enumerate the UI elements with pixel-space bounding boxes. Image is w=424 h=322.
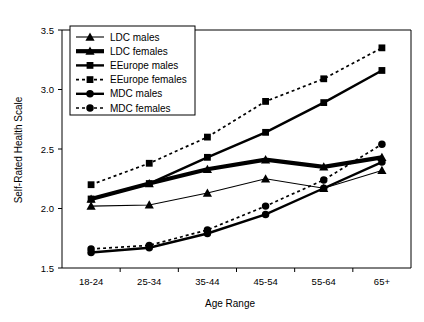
chart-container: 1.52.02.53.03.5 18-2425-3435-4445-5455-6…	[0, 0, 424, 322]
data-point-marker	[262, 202, 269, 209]
series-line	[91, 162, 382, 252]
data-point-marker	[379, 44, 386, 51]
legend-label: EEurope females	[110, 74, 187, 85]
legend-marker-circle-icon	[86, 104, 93, 111]
data-point-marker	[146, 180, 153, 187]
data-point-marker	[320, 75, 327, 82]
data-point-marker	[378, 158, 385, 165]
x-tick-label: 55-64	[312, 276, 336, 287]
x-axis-title: Age Range	[205, 298, 255, 309]
data-point-marker	[87, 245, 94, 252]
legend-label: LDC males	[110, 32, 159, 43]
y-tick-label: 2.5	[41, 144, 54, 155]
x-tick-label: 18-24	[79, 276, 103, 287]
legend-label: EEurope males	[110, 60, 178, 71]
legend-label: MDC males	[110, 88, 162, 99]
x-tick-label: 45-54	[253, 276, 277, 287]
legend-label: LDC females	[110, 46, 168, 57]
series-ldc-females	[86, 153, 386, 203]
data-point-marker	[204, 154, 211, 161]
series-mdc-males	[87, 158, 385, 256]
series-line	[91, 157, 382, 199]
legend-marker-square-icon	[87, 62, 94, 69]
data-point-marker	[146, 160, 153, 167]
series-mdc-females	[87, 141, 385, 253]
data-point-marker	[204, 134, 211, 141]
x-axis-ticks: 18-2425-3435-4445-5455-6465+	[79, 268, 390, 287]
data-point-marker	[379, 67, 386, 74]
x-tick-label: 35-44	[195, 276, 219, 287]
data-point-marker	[377, 166, 386, 174]
data-point-marker	[320, 185, 327, 192]
y-axis-title: Self-Rated Health Scale	[13, 96, 24, 203]
self-rated-health-line-chart: 1.52.02.53.03.5 18-2425-3435-4445-5455-6…	[0, 0, 424, 322]
y-tick-label: 1.5	[41, 263, 54, 274]
data-point-marker	[204, 226, 211, 233]
data-point-marker	[262, 211, 269, 218]
legend-label: MDC females	[110, 103, 171, 114]
y-tick-label: 2.0	[41, 203, 54, 214]
y-tick-label: 3.0	[41, 84, 54, 95]
data-point-marker	[88, 181, 95, 188]
y-tick-label: 3.5	[41, 25, 54, 36]
y-axis-ticks: 1.52.02.53.03.5	[41, 25, 62, 274]
chart-legend: LDC malesLDC femalesEEurope malesEEurope…	[70, 26, 195, 115]
data-point-marker	[378, 141, 385, 148]
data-point-marker	[88, 196, 95, 203]
data-point-marker	[146, 242, 153, 249]
data-point-marker	[320, 176, 327, 183]
series-line	[91, 144, 382, 249]
data-point-marker	[320, 99, 327, 106]
x-tick-label: 65+	[374, 276, 391, 287]
x-tick-label: 25-34	[137, 276, 161, 287]
data-point-marker	[262, 98, 269, 105]
data-point-marker	[262, 129, 269, 136]
legend-marker-square-icon	[87, 76, 94, 83]
legend-marker-circle-icon	[86, 90, 93, 97]
data-point-marker	[261, 174, 270, 182]
